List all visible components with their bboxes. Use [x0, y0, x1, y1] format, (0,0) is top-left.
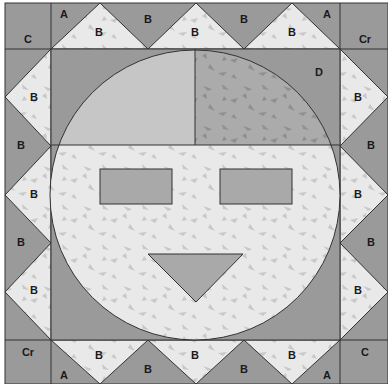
label-corner-br: C: [361, 346, 369, 358]
label-top-light-2: B: [191, 26, 199, 38]
label-right-dark-2: B: [367, 236, 375, 248]
label-left-light-2: B: [30, 188, 38, 200]
label-a-top-left: A: [60, 8, 68, 20]
label-left-dark-1: B: [17, 139, 25, 151]
label-right-light-1: B: [354, 91, 362, 103]
label-a-top-right: A: [323, 8, 331, 20]
label-left-light-3: B: [30, 284, 38, 296]
label-corner-tl: C: [24, 33, 32, 45]
label-bottom-light-2: B: [191, 349, 199, 361]
label-center-d: D: [315, 66, 323, 78]
label-left-light-1: B: [30, 91, 38, 103]
right-eye: [220, 169, 292, 204]
label-right-light-3: B: [354, 284, 362, 296]
label-a-bottom-right: A: [323, 369, 331, 381]
label-bottom-dark-1: B: [144, 363, 152, 375]
label-a-bottom-left: A: [60, 369, 68, 381]
label-bottom-dark-2: B: [240, 363, 248, 375]
label-left-dark-2: B: [17, 236, 25, 248]
label-top-dark-1: B: [144, 13, 152, 25]
label-bottom-light-3: B: [288, 349, 296, 361]
label-corner-tr: Cr: [359, 33, 372, 45]
label-top-light-3: B: [288, 26, 296, 38]
label-top-light-1: B: [95, 26, 103, 38]
label-right-light-2: B: [354, 188, 362, 200]
left-border: [5, 49, 51, 340]
label-bottom-light-1: B: [95, 349, 103, 361]
label-top-dark-2: B: [240, 13, 248, 25]
right-border: [340, 49, 388, 340]
left-eye: [100, 169, 172, 204]
bottom-border: [51, 340, 340, 384]
label-corner-bl: Cr: [22, 346, 35, 358]
label-right-dark-1: B: [367, 139, 375, 151]
quilt-block-diagram: C Cr Cr C A A A A B B B B B B B B B B B …: [0, 0, 388, 384]
